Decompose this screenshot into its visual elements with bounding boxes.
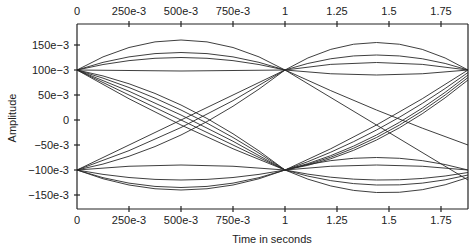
- x-tick-label-bottom: 1.75: [430, 214, 451, 226]
- x-tick-label-top: 1.75: [430, 5, 451, 17]
- x-tick-label-top: 1.25: [326, 5, 347, 17]
- x-tick-label-bottom: 1.5: [381, 214, 396, 226]
- signal-trace: [285, 70, 468, 145]
- y-axis-ticks: 150e−3100e−350e−30−50e-3−100e-3−150e-3: [28, 39, 80, 201]
- signal-trace: [285, 170, 468, 193]
- y-axis-title: Amplitude: [6, 94, 18, 143]
- y-tick-label: 150e−3: [32, 39, 69, 51]
- y-tick-label: −50e-3: [34, 139, 69, 151]
- signal-trace: [285, 70, 468, 170]
- signal-traces: [77, 40, 468, 193]
- x-tick-label-top: 750e-3: [216, 5, 250, 17]
- signal-trace: [285, 63, 468, 71]
- x-tick-label-top: 0: [74, 5, 80, 17]
- x-tick-label-top: 250e-3: [112, 5, 146, 17]
- x-tick-label-top: 1.5: [381, 5, 396, 17]
- x-tick-label-bottom: 1.25: [326, 214, 347, 226]
- x-tick-label-bottom: 0: [74, 214, 80, 226]
- x-tick-label-top: 500e-3: [164, 5, 198, 17]
- signal-trace: [285, 170, 468, 180]
- signal-trace: [77, 58, 285, 71]
- signal-trace: [285, 75, 468, 170]
- eye-diagram-chart: 0250e-3500e-3750e-311.251.51.75 0250e-35…: [0, 0, 476, 250]
- x-tick-label-bottom: 500e-3: [164, 214, 198, 226]
- x-tick-label-top: 1: [282, 5, 288, 17]
- x-tick-label-bottom: 250e-3: [112, 214, 146, 226]
- x-axis-title: Time in seconds: [232, 233, 312, 245]
- x-tick-label-bottom: 1: [282, 214, 288, 226]
- signal-trace: [285, 165, 468, 170]
- y-tick-label: −150e-3: [28, 189, 69, 201]
- signal-trace: [285, 70, 468, 75]
- y-tick-label: 0: [63, 114, 69, 126]
- signal-trace: [285, 170, 468, 185]
- signal-trace: [77, 40, 285, 70]
- x-tick-label-bottom: 750e-3: [216, 214, 250, 226]
- signal-trace: [77, 70, 285, 71]
- y-tick-label: −100e-3: [28, 164, 69, 176]
- signal-trace: [77, 165, 285, 170]
- signal-trace: [77, 170, 285, 188]
- y-tick-label: 50e−3: [38, 89, 69, 101]
- y-tick-label: 100e−3: [32, 64, 69, 76]
